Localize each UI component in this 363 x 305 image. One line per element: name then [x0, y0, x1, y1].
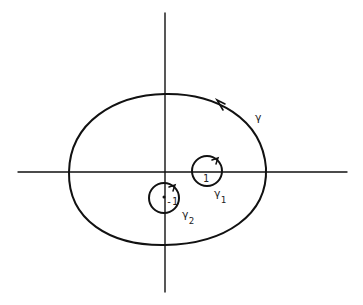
point-1-label: 1: [203, 173, 209, 184]
gamma-label: γ: [255, 111, 262, 124]
gamma2-arrow-icon: [169, 185, 175, 191]
point-minus1-label: -1: [166, 196, 178, 207]
contour-diagram: γ 1 γ1 -1 γ2: [0, 0, 363, 305]
gamma1-label: γ1: [214, 187, 226, 205]
gamma1-arrow-icon: [212, 158, 218, 164]
gamma-contour: [69, 94, 266, 245]
gamma2-label: γ2: [182, 208, 194, 226]
